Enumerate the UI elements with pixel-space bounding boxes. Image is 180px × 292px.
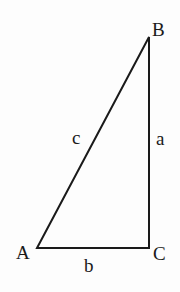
triangle-diagram: A B C a b c <box>0 0 180 292</box>
triangle-abc <box>37 37 149 248</box>
vertex-label-b: B <box>152 19 165 40</box>
side-label-a: a <box>156 128 165 149</box>
triangle-svg: A B C a b c <box>0 0 180 292</box>
vertex-label-a: A <box>16 242 30 263</box>
side-label-c: c <box>72 127 80 148</box>
vertex-label-c: C <box>153 243 166 264</box>
side-label-b: b <box>84 255 94 276</box>
